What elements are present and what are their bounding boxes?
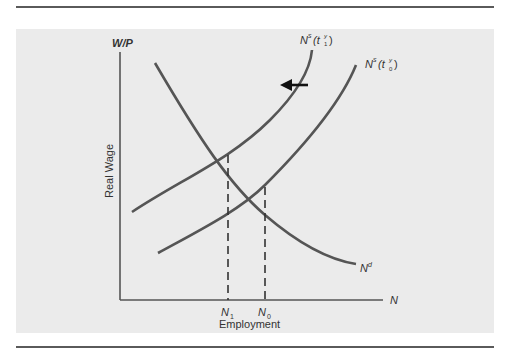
svg-text:): ) — [329, 34, 333, 46]
svg-text:y: y — [388, 57, 393, 63]
tick-n1: N 1 — [221, 306, 234, 320]
supply-curve-t0 — [158, 65, 356, 253]
svg-text:N: N — [360, 262, 368, 274]
svg-text:(t: (t — [313, 34, 321, 46]
svg-text:d: d — [368, 261, 373, 268]
y-axis-label: W/P — [112, 37, 133, 49]
labor-market-diagram: W/P N Real Wage Employment N 1 N 0 N d N… — [0, 0, 509, 355]
svg-text:N: N — [258, 306, 266, 318]
svg-text:0: 0 — [267, 313, 271, 320]
svg-text:1: 1 — [324, 41, 328, 47]
y-axis-title: Real Wage — [103, 144, 115, 198]
demand-label: N d — [360, 261, 373, 274]
bottom-rule — [16, 346, 494, 348]
svg-text:s: s — [373, 56, 377, 63]
svg-text:1: 1 — [230, 313, 234, 320]
svg-text:(t: (t — [378, 58, 386, 70]
demand-curve — [155, 63, 356, 264]
svg-text:N: N — [365, 58, 373, 70]
left-arrow-icon — [280, 79, 308, 91]
supply-curve-t1 — [132, 50, 312, 212]
x-axis-label: N — [390, 294, 398, 306]
supply-t1-label: N s (t y 1 ) — [300, 32, 333, 47]
tick-n0: N 0 — [258, 306, 271, 320]
svg-text:N: N — [221, 306, 229, 318]
supply-t0-label: N s (t y 0 ) — [365, 56, 398, 72]
svg-text:0: 0 — [389, 66, 393, 72]
x-axis-title: Employment — [219, 318, 280, 330]
svg-text:s: s — [308, 32, 312, 39]
svg-text:): ) — [394, 58, 398, 70]
svg-text:y: y — [323, 33, 328, 39]
svg-text:N: N — [300, 34, 308, 46]
